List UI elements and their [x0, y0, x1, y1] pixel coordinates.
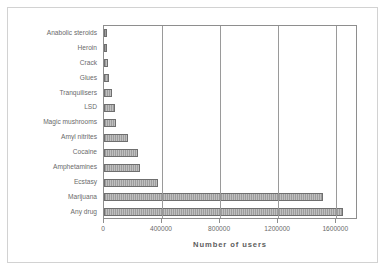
x-axis-tick-label: 1600000 — [322, 225, 348, 232]
x-axis-tick — [219, 219, 220, 223]
y-axis-label: Crack — [8, 55, 100, 70]
bar-row — [104, 56, 356, 71]
bar — [104, 164, 140, 172]
x-axis-tick-label: 0 — [101, 225, 105, 232]
y-axis-label: Cocaine — [8, 144, 100, 159]
chart-frame: Anabolic steroidsHeroinCrackGluesTranqui… — [7, 7, 378, 263]
bar — [104, 74, 109, 82]
y-axis-category-labels: Anabolic steroidsHeroinCrackGluesTranqui… — [8, 25, 100, 219]
y-axis-label: Amphetamines — [8, 159, 100, 174]
y-axis-label: Heroin — [8, 40, 100, 55]
gridline — [162, 26, 163, 218]
y-axis-label: Glues — [8, 70, 100, 85]
bar-row — [104, 41, 356, 56]
bar — [104, 44, 107, 52]
x-axis-title: Number of users — [103, 240, 357, 249]
bar-row — [104, 86, 356, 101]
bar — [104, 29, 107, 37]
y-axis-label: Magic mushrooms — [8, 114, 100, 129]
bar-row — [104, 205, 356, 220]
y-axis-label: Anabolic steroids — [8, 25, 100, 40]
bar — [104, 134, 128, 142]
bar-row — [104, 26, 356, 41]
x-axis-tick — [103, 219, 104, 223]
y-axis-label: Tranquilisers — [8, 85, 100, 100]
y-axis-label: Marijuana — [8, 189, 100, 204]
y-axis-label: Any drug — [8, 204, 100, 219]
x-axis-tick-label: 800000 — [208, 225, 230, 232]
y-axis-label: LSD — [8, 100, 100, 115]
x-axis-tick — [277, 219, 278, 223]
bar-row — [104, 101, 356, 116]
bar-row — [104, 115, 356, 130]
y-axis-label: Amyl nitrites — [8, 129, 100, 144]
y-axis-label: Ecstasy — [8, 174, 100, 189]
bar — [104, 149, 138, 157]
gridline — [278, 26, 279, 218]
bar — [104, 104, 115, 112]
plot-area — [103, 25, 357, 219]
x-axis-tick-label: 1200000 — [264, 225, 290, 232]
bar-row — [104, 160, 356, 175]
bar-row — [104, 145, 356, 160]
bar-row — [104, 190, 356, 205]
bar — [104, 59, 108, 67]
x-axis-tick — [335, 219, 336, 223]
gridline — [336, 26, 337, 218]
bar-row — [104, 130, 356, 145]
bar — [104, 179, 158, 187]
bar-series — [104, 26, 356, 218]
gridline — [220, 26, 221, 218]
bar — [104, 208, 343, 216]
bar — [104, 89, 112, 97]
bar-row — [104, 175, 356, 190]
x-axis-tick-label: 400000 — [150, 225, 172, 232]
bar — [104, 193, 323, 201]
bar-row — [104, 71, 356, 86]
x-axis-tick — [161, 219, 162, 223]
bar — [104, 119, 116, 127]
